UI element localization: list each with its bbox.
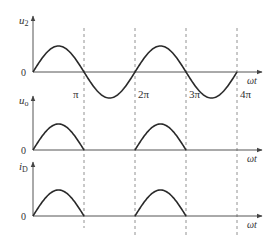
half-wave-pulse-2	[135, 124, 186, 150]
plot-uo: uo0ωt	[19, 94, 262, 164]
half-wave-pulse-1	[33, 190, 84, 216]
pi-label-2: 2π	[138, 88, 150, 100]
y-axis-label: u2	[19, 14, 29, 28]
half-wave-pulse-1	[33, 124, 84, 150]
y-axis-label: uo	[19, 94, 29, 108]
half-wave-pulse-2	[135, 190, 186, 216]
x-axis-label: ωt	[247, 153, 257, 164]
origin-label: 0	[21, 67, 26, 78]
y-axis-label: iD	[19, 160, 28, 174]
waveform-diagram: u20ωtuo0ωtiD0ωt π2π3π4π	[0, 0, 279, 250]
origin-label: 0	[21, 145, 26, 156]
plot-u2: u20ωt	[19, 14, 262, 98]
pi-label-3: 3π	[189, 88, 201, 100]
pi-label-1: π	[73, 88, 79, 100]
plots: u20ωtuo0ωtiD0ωt	[19, 14, 262, 230]
x-axis-label: ωt	[247, 75, 257, 86]
origin-label: 0	[21, 211, 26, 222]
x-axis-label: ωt	[247, 219, 257, 230]
pi-label-4: 4π	[240, 88, 252, 100]
plot-iD: iD0ωt	[19, 160, 262, 230]
dashed-period-lines	[84, 28, 237, 236]
